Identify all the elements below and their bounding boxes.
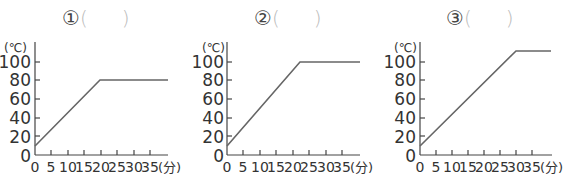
y-tick-labels: 0 20 40 60 80 100 <box>192 52 224 166</box>
line-chart-1: (℃) 0 20 40 60 80 100 0 5 <box>0 0 190 181</box>
temperature-line <box>227 62 360 146</box>
svg-text:100: 100 <box>384 52 416 72</box>
svg-text:5: 5 <box>239 159 248 175</box>
axes <box>35 42 168 155</box>
axes <box>227 42 360 155</box>
svg-text:0: 0 <box>20 146 31 166</box>
svg-text:5: 5 <box>432 159 441 175</box>
svg-text:0: 0 <box>416 159 425 175</box>
x-tick-labels: 0 5 10 15 20 25 30 35 <box>31 159 159 175</box>
svg-text:40: 40 <box>394 108 416 128</box>
svg-text:0: 0 <box>223 159 232 175</box>
svg-text:5: 5 <box>47 159 56 175</box>
svg-text:0: 0 <box>31 159 40 175</box>
x-unit-label: (分) <box>158 160 181 175</box>
svg-text:25: 25 <box>300 159 318 175</box>
temperature-line <box>35 80 168 146</box>
svg-text:25: 25 <box>108 159 126 175</box>
svg-text:60: 60 <box>9 89 31 109</box>
svg-text:100: 100 <box>0 52 31 72</box>
line-chart-2: (℃) 0 20 40 60 80 100 0 5 <box>190 0 380 181</box>
svg-text:40: 40 <box>9 108 31 128</box>
axes <box>420 42 552 155</box>
svg-text:15: 15 <box>75 159 93 175</box>
x-unit-label: (分) <box>350 160 373 175</box>
y-tick-labels: 0 20 40 60 80 100 <box>0 52 31 166</box>
chart-panel-3: ③() (℃) 0 20 40 60 80 100 <box>380 0 570 181</box>
svg-text:80: 80 <box>202 70 224 90</box>
x-tick-labels: 0 5 10 15 20 25 30 35 <box>223 159 351 175</box>
svg-text:15: 15 <box>267 159 285 175</box>
temperature-line <box>420 51 551 146</box>
y-tick-labels: 0 20 40 60 80 100 <box>384 52 416 166</box>
svg-text:60: 60 <box>202 89 224 109</box>
svg-text:20: 20 <box>202 127 224 147</box>
svg-text:35: 35 <box>333 159 351 175</box>
x-unit-label: (分) <box>540 160 563 175</box>
svg-text:35: 35 <box>523 159 541 175</box>
x-tick-labels: 0 5 10 15 20 25 30 35 <box>416 159 541 175</box>
svg-text:0: 0 <box>405 146 416 166</box>
svg-text:35: 35 <box>141 159 159 175</box>
svg-text:60: 60 <box>394 89 416 109</box>
svg-text:20: 20 <box>394 127 416 147</box>
svg-text:80: 80 <box>394 70 416 90</box>
svg-text:80: 80 <box>9 70 31 90</box>
chart-panel-1: ①() (℃) 0 20 40 60 80 100 <box>0 0 190 181</box>
line-chart-3: (℃) 0 20 40 60 80 100 0 5 <box>380 0 571 181</box>
chart-panel-2: ②() (℃) 0 20 40 60 80 100 <box>190 0 380 181</box>
svg-text:40: 40 <box>202 108 224 128</box>
svg-text:20: 20 <box>9 127 31 147</box>
svg-text:100: 100 <box>192 52 224 72</box>
